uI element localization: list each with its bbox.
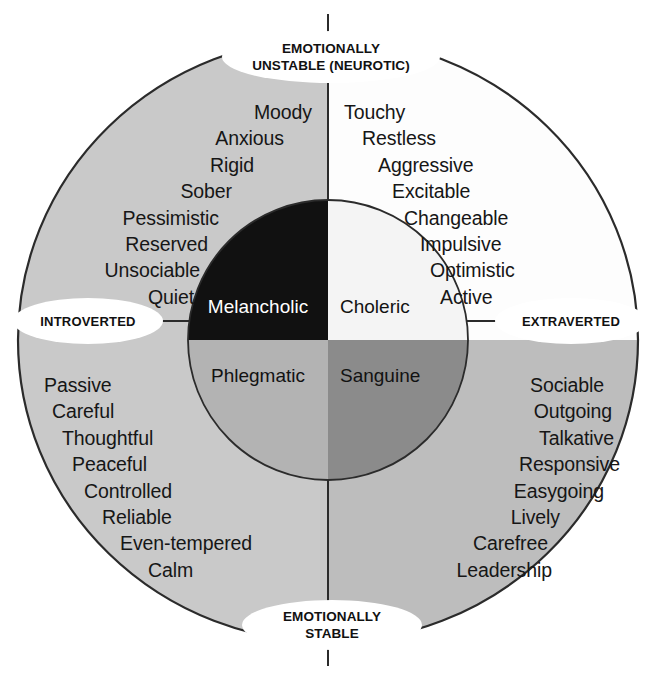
trait-item: Carefree — [344, 530, 626, 556]
trait-item: Changeable — [344, 205, 626, 231]
pole-line-2: UNSTABLE (NEUROTIC) — [252, 58, 410, 73]
trait-list-phlegmatic: Passive Careful Thoughtful Peaceful Cont… — [30, 372, 312, 583]
temperament-label-phlegmatic: Phlegmatic — [196, 365, 320, 387]
temperament-label-sanguine: Sanguine — [340, 365, 450, 387]
temperament-label-melancholic: Melancholic — [196, 296, 320, 318]
trait-item: Pessimistic — [30, 205, 312, 231]
pole-line-1: EMOTIONALLY — [282, 41, 380, 56]
pole-label-emotionally-unstable: EMOTIONALLY UNSTABLE (NEUROTIC) — [222, 31, 440, 83]
trait-item: Excitable — [344, 178, 626, 204]
trait-list-choleric: Touchy Restless Aggressive Excitable Cha… — [344, 99, 626, 310]
trait-item: Thoughtful — [30, 425, 312, 451]
trait-item: Unsociable — [30, 257, 312, 283]
trait-item: Reserved — [30, 231, 312, 257]
trait-item: Moody — [30, 99, 312, 125]
trait-item: Impulsive — [344, 231, 626, 257]
trait-item: Touchy — [344, 99, 626, 125]
trait-item: Careful — [30, 398, 312, 424]
trait-item: Leadership — [344, 557, 626, 583]
trait-item: Restless — [344, 125, 626, 151]
trait-item: Lively — [344, 504, 626, 530]
pole-label-emotionally-stable: EMOTIONALLY STABLE — [242, 600, 422, 650]
trait-item: Even-tempered — [30, 530, 312, 556]
pole-line-1: EMOTIONALLY — [283, 609, 381, 624]
trait-item: Outgoing — [344, 398, 626, 424]
trait-item: Rigid — [30, 152, 312, 178]
pole-line-2: STABLE — [305, 626, 359, 641]
pole-label-introverted: INTROVERTED — [13, 298, 163, 344]
trait-item: Reliable — [30, 504, 312, 530]
eysenck-personality-circle: Moody Anxious Rigid Sober Pessimistic Re… — [0, 0, 656, 677]
pole-line-1: INTROVERTED — [36, 314, 139, 329]
trait-item: Talkative — [344, 425, 626, 451]
trait-item: Responsive — [344, 451, 626, 477]
trait-item: Easygoing — [344, 478, 626, 504]
trait-item: Calm — [30, 557, 312, 583]
trait-item: Optimistic — [344, 257, 626, 283]
trait-item: Sober — [30, 178, 312, 204]
pole-label-extraverted: EXTRAVERTED — [495, 298, 647, 344]
trait-item: Peaceful — [30, 451, 312, 477]
trait-list-melancholic: Moody Anxious Rigid Sober Pessimistic Re… — [30, 99, 312, 310]
trait-list-sanguine: Sociable Outgoing Talkative Responsive E… — [344, 372, 626, 583]
temperament-label-choleric: Choleric — [340, 296, 450, 318]
trait-item: Anxious — [30, 125, 312, 151]
trait-item: Controlled — [30, 478, 312, 504]
trait-item: Aggressive — [344, 152, 626, 178]
pole-line-1: EXTRAVERTED — [518, 314, 624, 329]
